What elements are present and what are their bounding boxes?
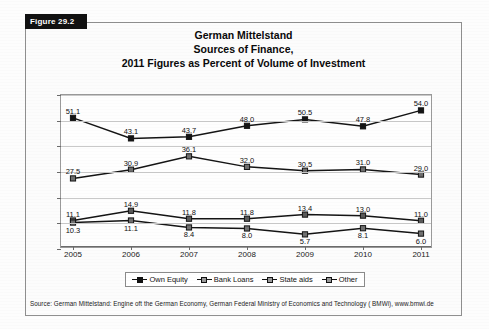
chart-title: German Mittelstand Sources of Finance, 2… — [25, 28, 462, 70]
y-gridline — [61, 95, 431, 96]
x-axis-line — [61, 246, 431, 247]
legend-label: Own Equity — [149, 275, 187, 284]
y-axis-tick — [57, 146, 61, 147]
data-point-label: 48.0 — [240, 115, 255, 124]
x-axis-tick-label: 2009 — [283, 250, 327, 259]
data-point-label: 11.8 — [182, 208, 196, 217]
x-axis-tick-label: 2008 — [225, 250, 269, 259]
data-point-label: 8.0 — [242, 231, 252, 240]
legend-label: Bank Loans — [214, 275, 254, 284]
y-axis-tick — [57, 121, 61, 122]
chart-legend: Own EquityBank LoansState aidsOther — [125, 272, 365, 287]
data-point-marker — [244, 164, 249, 169]
data-point-label: 30.5 — [298, 160, 313, 169]
chart-title-line-1: German Mittelstand — [25, 28, 462, 42]
data-point-label: 8.4 — [184, 230, 194, 239]
data-point-marker — [302, 212, 307, 217]
data-point-marker — [186, 216, 191, 221]
data-point-marker — [186, 225, 191, 230]
figure-number-badge: Figure 29.2 — [25, 14, 87, 29]
data-point-marker — [244, 226, 249, 231]
x-axis-tick-label: 2005 — [51, 250, 95, 259]
y-axis-tick — [57, 223, 61, 224]
x-axis-tick — [247, 247, 248, 250]
chart-title-line-2: Sources of Finance, — [25, 42, 462, 56]
legend-item: State aids — [262, 275, 312, 284]
data-point-marker — [418, 231, 423, 236]
figure-screenshot: Figure 29.2 German Mittelstand Sources o… — [0, 0, 489, 329]
data-point-marker — [70, 176, 75, 181]
legend-item: Bank Loans — [197, 275, 254, 284]
legend-marker-icon — [197, 275, 212, 284]
y-gridline — [61, 198, 431, 199]
legend-marker-icon — [322, 275, 337, 284]
legend-item: Other — [322, 275, 358, 284]
x-axis-tick — [305, 247, 306, 250]
x-axis-tick — [189, 247, 190, 250]
data-point-label: 29.0 — [414, 164, 429, 173]
data-point-label: 10.3 — [66, 226, 81, 235]
x-axis-tick — [73, 247, 74, 250]
data-point-marker — [128, 208, 133, 213]
data-point-label: 6.0 — [416, 237, 426, 246]
plot-area: 51.143.143.748.050.547.854.027.530.936.1… — [60, 94, 432, 248]
data-point-label: 43.1 — [124, 127, 139, 136]
chart-title-line-3: 2011 Figures as Percent of Volume of Inv… — [25, 56, 462, 70]
data-point-label: 31.0 — [356, 158, 371, 167]
data-point-marker — [418, 108, 423, 113]
x-axis-tick-label: 2006 — [109, 250, 153, 259]
data-point-marker — [244, 216, 249, 221]
y-axis-tick — [57, 198, 61, 199]
x-axis-tick — [131, 247, 132, 250]
data-point-label: 50.5 — [298, 108, 313, 117]
data-point-label: 8.1 — [358, 231, 368, 240]
x-axis-tick — [363, 247, 364, 250]
data-point-label: 36.1 — [182, 145, 197, 154]
data-point-marker — [128, 218, 133, 223]
data-point-label: 13.0 — [356, 205, 371, 214]
data-point-marker — [70, 115, 75, 120]
x-axis-tick — [421, 247, 422, 250]
y-gridline — [61, 172, 431, 173]
data-point-label: 11.8 — [240, 208, 254, 217]
y-gridline — [61, 146, 431, 147]
y-gridline — [61, 223, 431, 224]
data-point-label: 11.0 — [414, 210, 428, 219]
data-point-label: 11.1 — [66, 210, 80, 219]
data-point-marker — [186, 154, 191, 159]
data-point-marker — [360, 124, 365, 129]
data-point-label: 27.5 — [66, 167, 81, 176]
data-point-marker — [302, 232, 307, 237]
data-point-label: 51.1 — [66, 107, 81, 116]
y-axis-tick — [57, 95, 61, 96]
source-footer: Source: German Mittelstand: Engine oft t… — [25, 298, 462, 316]
data-point-label: 30.9 — [124, 159, 139, 168]
y-axis-tick — [57, 172, 61, 173]
data-point-label: 43.7 — [182, 126, 197, 135]
x-axis-tick-label: 2010 — [341, 250, 385, 259]
data-point-label: 54.0 — [414, 99, 429, 108]
source-text: Source: German Mittelstand: Engine oft t… — [30, 300, 434, 307]
data-point-label: 32.0 — [240, 156, 255, 165]
legend-label: Other — [339, 275, 358, 284]
x-axis-tick-label: 2011 — [399, 250, 443, 259]
legend-item: Own Equity — [132, 275, 187, 284]
legend-marker-icon — [132, 275, 147, 284]
data-point-marker — [360, 213, 365, 218]
data-point-marker — [186, 134, 191, 139]
legend-label: State aids — [279, 275, 312, 284]
legend-marker-icon — [262, 275, 277, 284]
data-point-label: 5.7 — [300, 237, 310, 246]
data-point-marker — [244, 123, 249, 128]
data-point-marker — [360, 226, 365, 231]
data-point-label: 13.4 — [298, 204, 313, 213]
data-point-label: 47.8 — [356, 115, 371, 124]
data-point-label: 11.1 — [124, 224, 138, 233]
data-point-marker — [128, 136, 133, 141]
data-point-label: 14.9 — [124, 200, 139, 209]
x-axis-tick-label: 2007 — [167, 250, 211, 259]
footer-divider — [25, 315, 462, 316]
plot-inner: 51.143.143.748.050.547.854.027.530.936.1… — [61, 95, 431, 247]
